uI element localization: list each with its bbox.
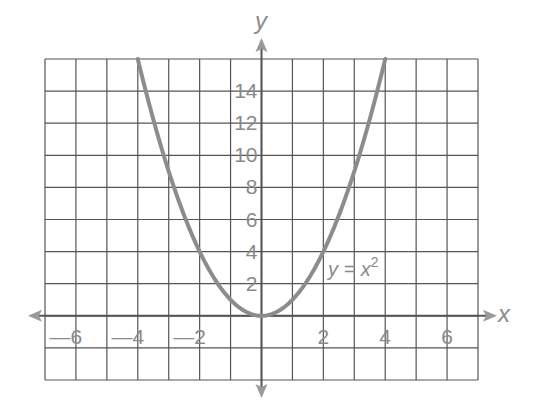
y-tick-label: 6 bbox=[246, 208, 258, 231]
y-tick-label: 8 bbox=[246, 175, 258, 198]
equation-main: y = x bbox=[326, 258, 372, 280]
equation-exponent: 2 bbox=[371, 254, 379, 270]
y-tick-label: 12 bbox=[234, 111, 257, 134]
y-tick-label: 10 bbox=[234, 143, 257, 166]
x-axis-label: x bbox=[497, 300, 511, 327]
equation-label: y = x2 bbox=[326, 254, 379, 280]
x-tick-label: —4 bbox=[111, 325, 144, 348]
y-tick-label: 2 bbox=[246, 272, 258, 295]
x-tick-label: 4 bbox=[379, 325, 391, 348]
x-tick-label: 6 bbox=[441, 325, 453, 348]
x-tick-label: 2 bbox=[318, 325, 330, 348]
y-tick-label: 4 bbox=[246, 240, 258, 263]
axes bbox=[28, 38, 497, 398]
x-tick-label: —6 bbox=[50, 325, 83, 348]
x-tick-labels: —6—4—2246 bbox=[50, 325, 453, 348]
x-tick-label: —2 bbox=[173, 325, 206, 348]
parabola-chart: 2468101214 —6—4—2246 x y y = x2 bbox=[0, 0, 535, 420]
y-tick-label: 14 bbox=[234, 79, 258, 102]
y-axis-label: y bbox=[253, 7, 269, 34]
